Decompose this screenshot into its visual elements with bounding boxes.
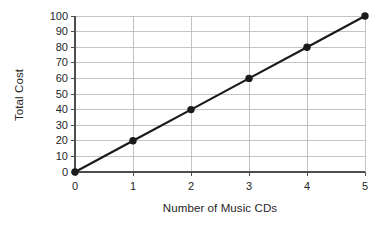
x-tick-label-5: 5	[350, 181, 380, 192]
x-axis-title: Number of Music CDs	[75, 202, 365, 214]
x-tick-label-0: 0	[60, 181, 90, 192]
x-tick-label-4: 4	[292, 181, 322, 192]
x-tick-label-3: 3	[234, 181, 264, 192]
chart-figure: 100 90 80 70 60 50 40 30 20 10 0 0 1 2 3…	[0, 0, 384, 228]
x-tick-label-1: 1	[118, 181, 148, 192]
x-axis-tick-labels: 0 1 2 3 4 5	[0, 0, 384, 228]
x-tick-label-2: 2	[176, 181, 206, 192]
y-axis-title: Total Cost	[10, 45, 28, 145]
